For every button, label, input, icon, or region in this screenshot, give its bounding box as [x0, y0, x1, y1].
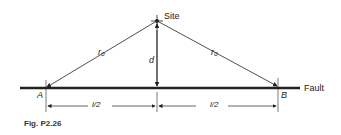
r0-right-label: r₀ — [211, 48, 218, 57]
half-length-left-label: l/2 — [92, 101, 100, 109]
site-label: Site — [164, 12, 180, 21]
fault-label: Fault — [304, 84, 324, 93]
half-length-right-label: l/2 — [210, 101, 218, 109]
d-label: d — [149, 56, 154, 65]
point-a-label: A — [37, 91, 43, 100]
r0-right-line — [159, 22, 277, 86]
r0-left-label: r₀ — [98, 48, 105, 57]
diagram: Site Fault A B r₀ r₀ d l/2 l/2 Fig. P2.2… — [0, 0, 341, 135]
figure-caption: Fig. P2.26 — [24, 119, 61, 128]
point-b-label: B — [281, 91, 287, 100]
